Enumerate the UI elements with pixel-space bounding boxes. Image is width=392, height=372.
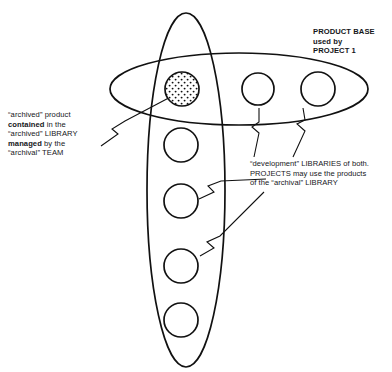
connector-development-right — [293, 108, 305, 157]
caption-archived-line2-bold: contained — [8, 120, 45, 129]
library-circle-3 — [164, 249, 198, 283]
caption-archived-line2-rest: in the — [45, 120, 66, 129]
caption-archived-line5: “archival” TEAM — [8, 148, 78, 158]
caption-product-base-line2: used by — [313, 37, 375, 47]
caption-archived-line4-rest: by the — [42, 139, 65, 148]
library-circle-2 — [164, 184, 198, 218]
caption-archived-line2: contained in the — [8, 120, 78, 130]
product-circle-3 — [301, 72, 335, 106]
caption-development-line2: PROJECTS may use the products — [250, 169, 369, 179]
caption-development-line3: of the “archival” LIBRARY — [250, 178, 369, 188]
caption-product-base-line1: PRODUCT BASE — [313, 27, 375, 37]
caption-product-base-line3: PROJECT 1 — [313, 46, 375, 56]
caption-development-line1: “development” LIBRARIES of both. — [250, 159, 369, 169]
connector-development-left — [252, 108, 259, 157]
product-circle-2 — [242, 73, 274, 105]
caption-development-libraries: “development” LIBRARIES of both. PROJECT… — [250, 159, 369, 188]
circles-group — [164, 72, 335, 337]
library-circle-4 — [164, 303, 198, 337]
caption-product-base: PRODUCT BASE used by PROJECT 1 — [313, 27, 375, 56]
caption-archived-product: “archived” product contained in the “arc… — [8, 110, 78, 158]
caption-archived-line3: “archived” LIBRARY — [8, 129, 78, 139]
caption-archived-line1: “archived” product — [8, 110, 78, 120]
archived-product-circle — [165, 72, 199, 106]
library-circle-1 — [164, 128, 198, 162]
connector-library-lower — [200, 192, 264, 256]
caption-archived-line4: managed by the — [8, 139, 78, 149]
caption-archived-line4-bold: managed — [8, 139, 42, 148]
diagram-canvas: PRODUCT BASE used by PROJECT 1 “archived… — [0, 0, 392, 372]
ellipses-group — [110, 13, 368, 367]
